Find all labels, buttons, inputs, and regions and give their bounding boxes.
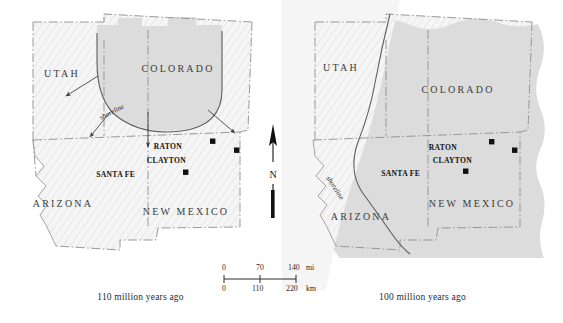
- state-label-utah: UTAH: [323, 62, 359, 73]
- city-label-clayton: CLAYTON: [433, 156, 472, 165]
- city-label-santa-fe: SANTA FE: [96, 170, 135, 179]
- state-label-colorado: COLORADO: [421, 84, 494, 95]
- scale-bar: 0 70 140 mi 0 110 220 km: [218, 263, 322, 297]
- map-graphic-right: shoreline UTAH COLORADO ARIZONA NEW MEXI…: [282, 0, 563, 290]
- city-marker-clayton: [512, 148, 517, 153]
- city-label-clayton: CLAYTON: [147, 156, 186, 165]
- paleogeographic-figure: shoreline UTAH COLORADO ARIZONA NEW MEXI…: [0, 0, 563, 323]
- map-graphic-left: shoreline UTAH COLORADO ARIZONA NEW MEXI…: [0, 0, 281, 290]
- scale-tick-mi-140: 140: [288, 263, 300, 272]
- city-marker-santa-fe: [183, 170, 188, 175]
- city-marker-clayton: [234, 148, 239, 153]
- state-label-colorado: COLORADO: [141, 63, 214, 74]
- map-panel-100ma: shoreline UTAH COLORADO ARIZONA NEW MEXI…: [282, 0, 563, 323]
- north-arrow-label: N: [269, 169, 276, 180]
- scale-unit-km: km: [306, 284, 316, 293]
- state-label-arizona: ARIZONA: [33, 198, 93, 209]
- state-label-new-mexico: NEW MEXICO: [429, 198, 516, 209]
- scale-tick-mi-70: 70: [256, 263, 264, 272]
- scale-tick-km-110: 110: [252, 284, 263, 293]
- city-label-raton: RATON: [154, 142, 182, 151]
- scale-unit-mi: mi: [306, 263, 314, 272]
- panel-caption-100ma: 100 million years ago: [282, 292, 563, 302]
- state-label-utah: UTAH: [44, 68, 80, 79]
- state-label-arizona: ARIZONA: [331, 211, 391, 222]
- city-label-raton: RATON: [429, 143, 457, 152]
- north-arrow-tail: [271, 190, 275, 218]
- state-label-new-mexico: NEW MEXICO: [143, 206, 230, 217]
- city-label-santa-fe: SANTA FE: [381, 169, 420, 178]
- scale-tick-km-0: 0: [222, 284, 226, 293]
- scale-bar-km-labels: 0 110 220 km: [218, 284, 322, 295]
- scale-tick-km-220: 220: [286, 284, 298, 293]
- scale-bar-ruler: [218, 274, 322, 284]
- city-marker-santa-fe: [463, 169, 468, 174]
- scale-tick-mi-0: 0: [222, 263, 226, 272]
- city-marker-raton: [489, 139, 494, 144]
- scale-bar-miles-labels: 0 70 140 mi: [218, 263, 322, 274]
- city-marker-raton: [210, 139, 215, 144]
- north-arrow: N: [258, 122, 288, 222]
